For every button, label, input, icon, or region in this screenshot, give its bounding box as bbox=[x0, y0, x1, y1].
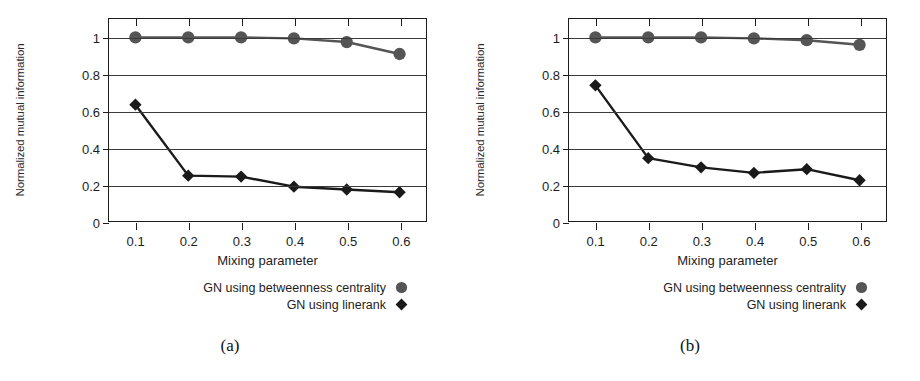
gridline bbox=[569, 112, 886, 113]
x-tick-label: 0.2 bbox=[180, 234, 198, 249]
x-tick-label: 0.5 bbox=[799, 234, 817, 249]
series-line bbox=[595, 85, 859, 180]
x-tick-mark bbox=[242, 223, 243, 230]
x-tick-label: 0.3 bbox=[693, 234, 711, 249]
panel-b: Normalized mutual information 00.20.40.6… bbox=[460, 0, 920, 381]
y-axis-label-a: Normalized mutual information bbox=[14, 18, 40, 222]
gridline bbox=[109, 186, 426, 187]
y-tick-mark bbox=[103, 38, 109, 39]
x-tick-label: 0.3 bbox=[233, 234, 251, 249]
x-tick-mark-top bbox=[295, 19, 296, 26]
x-tick-label: 0.4 bbox=[286, 234, 304, 249]
y-tick-label: 0.6 bbox=[542, 104, 560, 119]
y-tick-mark bbox=[563, 223, 569, 224]
legend-circle-icon bbox=[846, 280, 876, 295]
y-tick-label: 0.4 bbox=[542, 141, 560, 156]
series-layer-b bbox=[569, 19, 886, 222]
x-axis-label-b: Mixing parameter bbox=[568, 253, 887, 268]
legend-label: GN using linerank bbox=[747, 298, 846, 312]
x-tick-mark-top bbox=[136, 19, 137, 26]
x-tick-mark bbox=[755, 223, 756, 230]
y-tick-mark bbox=[103, 186, 109, 187]
data-point-diamond bbox=[853, 174, 865, 186]
y-tick-label: 1 bbox=[553, 30, 560, 45]
plot-area-b: 00.20.40.60.810.10.20.30.40.50.6 bbox=[568, 18, 887, 222]
legend-label: GN using linerank bbox=[287, 298, 386, 312]
x-tick-label: 0.4 bbox=[746, 234, 764, 249]
y-tick-label: 0 bbox=[93, 216, 100, 231]
y-tick-mark bbox=[563, 149, 569, 150]
legend-diamond-icon bbox=[846, 297, 876, 312]
x-tick-mark bbox=[808, 223, 809, 230]
x-tick-mark bbox=[649, 223, 650, 230]
panel-a: Normalized mutual information 00.20.40.6… bbox=[0, 0, 460, 381]
x-tick-mark bbox=[401, 223, 402, 230]
series-line bbox=[135, 37, 399, 54]
x-tick-label: 0.6 bbox=[852, 234, 870, 249]
x-tick-mark bbox=[596, 223, 597, 230]
data-point-diamond bbox=[235, 170, 247, 182]
legend-item: GN using linerank bbox=[96, 296, 416, 313]
y-tick-label: 0.2 bbox=[542, 178, 560, 193]
plot-area-a: 00.20.40.60.810.10.20.30.40.50.6 bbox=[108, 18, 427, 222]
x-tick-label: 0.1 bbox=[587, 234, 605, 249]
y-tick-mark bbox=[563, 75, 569, 76]
caption-a: (a) bbox=[0, 336, 460, 356]
data-point-diamond bbox=[393, 186, 405, 198]
gridline bbox=[569, 186, 886, 187]
y-tick-label: 0 bbox=[553, 216, 560, 231]
x-tick-mark-top bbox=[702, 19, 703, 26]
gridline bbox=[569, 149, 886, 150]
series-line bbox=[595, 37, 859, 44]
x-tick-mark-top bbox=[189, 19, 190, 26]
x-tick-label: 0.6 bbox=[392, 234, 410, 249]
data-point-diamond bbox=[695, 161, 707, 173]
legend-item: GN using linerank bbox=[556, 296, 876, 313]
y-tick-mark bbox=[103, 112, 109, 113]
x-tick-mark-top bbox=[808, 19, 809, 26]
x-axis-label-a: Mixing parameter bbox=[108, 253, 427, 268]
y-tick-mark bbox=[563, 112, 569, 113]
y-axis-label-b: Normalized mutual information bbox=[474, 18, 500, 222]
y-tick-mark bbox=[103, 149, 109, 150]
gridline bbox=[109, 38, 426, 39]
y-tick-mark bbox=[103, 223, 109, 224]
y-tick-label: 0.8 bbox=[542, 67, 560, 82]
data-point-diamond bbox=[748, 167, 760, 179]
y-tick-label: 0.6 bbox=[82, 104, 100, 119]
x-tick-mark bbox=[861, 223, 862, 230]
x-tick-mark-top bbox=[596, 19, 597, 26]
data-point-circle bbox=[853, 39, 865, 51]
legend-item: GN using betweenness centrality bbox=[556, 279, 876, 296]
figure-two-panel-chart: Normalized mutual information 00.20.40.6… bbox=[0, 0, 920, 381]
y-tick-label: 0.2 bbox=[82, 178, 100, 193]
x-tick-mark bbox=[189, 223, 190, 230]
legend-a: GN using betweenness centralityGN using … bbox=[96, 279, 416, 313]
series-layer-a bbox=[109, 19, 426, 222]
gridline bbox=[569, 38, 886, 39]
y-tick-mark bbox=[563, 186, 569, 187]
x-tick-mark-top bbox=[242, 19, 243, 26]
x-tick-mark-top bbox=[755, 19, 756, 26]
y-tick-label: 0.4 bbox=[82, 141, 100, 156]
y-tick-mark bbox=[563, 38, 569, 39]
legend-label: GN using betweenness centrality bbox=[203, 281, 386, 295]
x-tick-label: 0.1 bbox=[127, 234, 145, 249]
legend-b: GN using betweenness centralityGN using … bbox=[556, 279, 876, 313]
data-point-diamond bbox=[801, 163, 813, 175]
legend-label: GN using betweenness centrality bbox=[663, 281, 846, 295]
x-tick-mark bbox=[136, 223, 137, 230]
x-tick-label: 0.5 bbox=[339, 234, 357, 249]
x-tick-mark bbox=[348, 223, 349, 230]
x-tick-mark-top bbox=[861, 19, 862, 26]
x-tick-mark bbox=[295, 223, 296, 230]
x-tick-mark-top bbox=[649, 19, 650, 26]
legend-circle-icon bbox=[386, 280, 416, 295]
y-tick-label: 0.8 bbox=[82, 67, 100, 82]
data-point-circle bbox=[393, 48, 405, 60]
x-tick-label: 0.2 bbox=[640, 234, 658, 249]
gridline bbox=[109, 112, 426, 113]
legend-diamond-icon bbox=[386, 297, 416, 312]
data-point-circle bbox=[801, 34, 813, 46]
x-tick-mark-top bbox=[348, 19, 349, 26]
